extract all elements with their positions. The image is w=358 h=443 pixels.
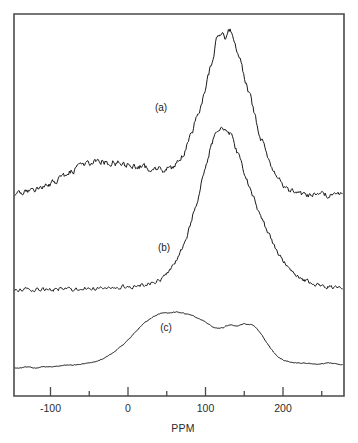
trace-label-a: (a) bbox=[155, 102, 167, 113]
axis-tick-group bbox=[51, 387, 322, 396]
x-axis-tick-label: 200 bbox=[274, 402, 292, 414]
x-axis-title: PPM bbox=[171, 422, 195, 434]
x-axis-tick-label: -100 bbox=[40, 402, 61, 414]
plot-frame bbox=[14, 14, 344, 396]
spectrum-trace-c bbox=[15, 312, 342, 369]
trace-label-b: (b) bbox=[158, 242, 170, 253]
spectrum-trace-b bbox=[15, 127, 342, 292]
trace-label-c: (c) bbox=[160, 322, 172, 333]
x-axis-tick-label: 0 bbox=[125, 402, 131, 414]
spectrum-plot: -1000100200 PPM (a) (b) (c) bbox=[0, 0, 358, 443]
axis-tick-label-group: -1000100200 bbox=[40, 402, 292, 414]
spectrum-trace-a bbox=[15, 29, 342, 199]
x-axis-tick-label: 100 bbox=[197, 402, 215, 414]
nmr-spectrum-figure: -1000100200 PPM (a) (b) (c) bbox=[0, 0, 358, 443]
